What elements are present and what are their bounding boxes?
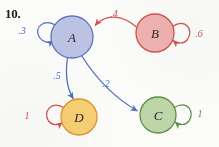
diagram-page: 10. A (0, 0, 219, 147)
state-diagram: A B C D .3 .4 .6 .5 .2 1 1 (0, 0, 219, 147)
edge-label-a-to-d: .5 (53, 70, 61, 81)
node-d-label: D (73, 110, 84, 125)
node-a[interactable]: A (51, 16, 93, 58)
node-c-label: C (154, 108, 163, 123)
edge-label-a-to-c: .2 (102, 78, 110, 89)
node-b-label: B (151, 26, 159, 41)
edge-label-b-to-a: .4 (110, 8, 118, 19)
edge-label-a-self: .3 (18, 25, 26, 36)
node-d[interactable]: D (61, 99, 97, 135)
edge-a-to-d (66, 58, 73, 100)
node-c[interactable]: C (140, 97, 176, 133)
edge-label-b-self: .6 (195, 28, 203, 39)
node-a-label: A (67, 30, 76, 45)
edge-b-self-loop (173, 24, 190, 43)
edge-label-c-self: 1 (198, 108, 203, 119)
edge-label-d-self: 1 (25, 110, 30, 121)
node-b[interactable]: B (136, 14, 174, 52)
